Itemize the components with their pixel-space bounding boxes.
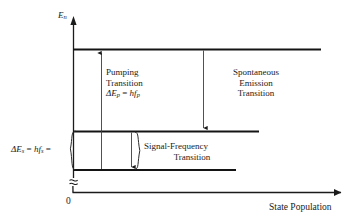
signal-transition-brace-icon <box>135 132 140 169</box>
signal-frequency-line-1: Signal-Frequency <box>144 141 240 152</box>
gap-hf: hf <box>34 144 41 154</box>
pumping-transition-equation: ΔEp = hfp <box>106 88 143 99</box>
pumping-equals: = <box>120 88 130 98</box>
pumping-transition-label: Pumping Transition ΔEp = hfp <box>106 67 143 99</box>
pumping-delta-e: ΔE <box>106 88 117 98</box>
gap-equals-1: = <box>24 144 34 154</box>
signal-frequency-label: Signal-Frequency Transition <box>144 141 240 162</box>
x-axis-label: State Population <box>269 202 332 213</box>
pumping-transition-line-1: Pumping <box>106 67 143 78</box>
y-axis-label-subscript: n <box>64 13 67 20</box>
signal-frequency-line-2: Transition <box>144 152 240 163</box>
spontaneous-emission-line-3: Transition <box>203 88 309 99</box>
diagram-canvas <box>0 0 361 219</box>
pumping-hf: hf <box>130 88 137 98</box>
pumping-transition-line-2: Transition <box>106 78 143 89</box>
origin-label: 0 <box>66 196 71 207</box>
y-axis-label: En <box>58 10 67 21</box>
spontaneous-emission-label: Spontaneous Emission Transition <box>203 67 309 99</box>
spontaneous-emission-line-1: Spontaneous <box>203 67 309 78</box>
x-axis <box>73 186 342 193</box>
pumping-hf-subscript: p <box>137 91 140 98</box>
spontaneous-emission-line-2: Emission <box>203 78 309 89</box>
gap-equals-2: = <box>43 144 50 154</box>
axis-break-icon <box>70 180 78 185</box>
gap-delta-e: ΔE <box>11 144 22 154</box>
arrow-up-icon <box>70 16 76 25</box>
signal-energy-gap-label: ΔEs = hfs = <box>11 144 51 155</box>
energy-level-diagram: En 0 State Population Pumping Transition… <box>0 0 361 219</box>
